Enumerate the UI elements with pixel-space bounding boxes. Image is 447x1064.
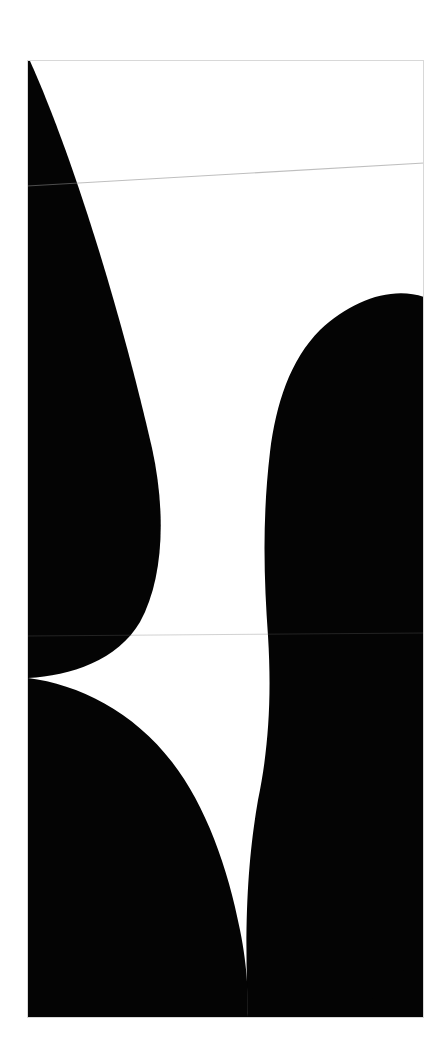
abstract-curve-composition (0, 0, 447, 1064)
artwork-canvas: Two large black circular-arc masses sepa… (0, 0, 447, 1064)
panel-contents (27, 0, 447, 1064)
